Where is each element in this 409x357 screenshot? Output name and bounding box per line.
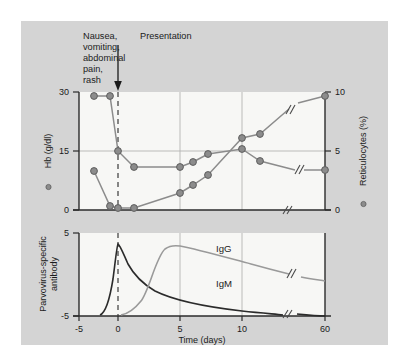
reticulocytes-legend-marker-icon [361, 201, 366, 206]
top-left-ticklabel-0: 0 [64, 205, 69, 215]
top-left-ticklabel-30: 30 [59, 87, 69, 97]
x-ticklabel-0: 0 [115, 324, 120, 334]
top-right-ticklabel-5: 5 [335, 146, 340, 156]
top-right-ticklabel-0: 0 [335, 205, 340, 215]
top-panel-right-axis-title-group: Reticulocytes (%) [358, 116, 368, 207]
top-right-ticklabel-10: 10 [335, 87, 345, 97]
parvovirus-infection-chart: 30 15 0 10 5 0 Hb (g/dl) Reticulocytes (… [21, 21, 388, 345]
bottom-left-ticklabel-5: 5 [64, 228, 69, 238]
antibody-axis-title-group: Parvovirus-specific antibody [38, 236, 59, 312]
symptoms-annotation: Nausea, vomiting, abdominal pain, rash [83, 31, 125, 85]
presentation-label: Presentation [140, 31, 192, 41]
antibody-axis-title-line2: antibody [49, 256, 59, 291]
reticulocytes-axis-title: Reticulocytes (%) [358, 116, 368, 186]
x-ticklabel-10: 10 [237, 324, 247, 334]
figure-container: 30 15 0 10 5 0 Hb (g/dl) Reticulocytes (… [21, 21, 388, 345]
hb-axis-title: Hb (g/dl) [43, 134, 53, 169]
igg-series-label: IgG [216, 243, 231, 254]
x-ticklabel-60: 60 [320, 324, 330, 334]
top-panel-left-axis-title-group: Hb (g/dl) [43, 134, 53, 190]
x-ticklabel-minus5: -5 [75, 324, 83, 334]
hb-legend-marker-icon [46, 184, 51, 189]
symptoms-line-2: vomiting, [83, 42, 120, 52]
x-axis-title: Time (days) [178, 335, 225, 345]
symptoms-line-5: rash [83, 75, 101, 85]
igm-series-label: IgM [216, 278, 232, 289]
symptoms-line-3: abdominal [83, 53, 125, 63]
symptoms-line-4: pain, [83, 64, 103, 74]
bottom-left-ticklabel-minus5: -5 [61, 311, 69, 321]
x-ticklabel-5: 5 [177, 324, 182, 334]
top-left-ticklabel-15: 15 [59, 146, 69, 156]
symptoms-line-1: Nausea, [83, 31, 117, 41]
antibody-axis-title-line1: Parvovirus-specific [38, 236, 48, 312]
